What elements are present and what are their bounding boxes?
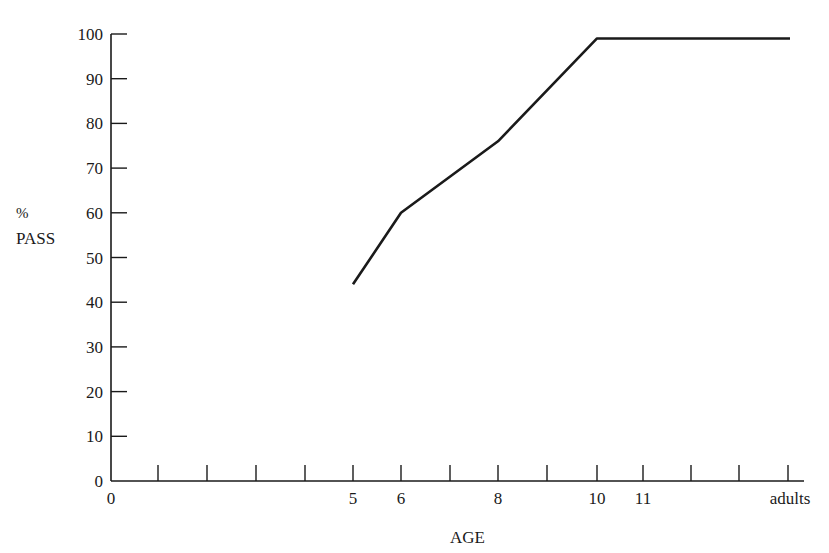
y-tick-label: 100 <box>78 25 104 44</box>
x-tick-label: 5 <box>349 489 358 508</box>
y-tick-label: 60 <box>86 204 103 223</box>
y-tick-label: 40 <box>86 293 103 312</box>
y-tick-label: 0 <box>95 472 104 491</box>
chart-canvas: 0102030405060708090100 05681011adults % … <box>0 0 829 553</box>
x-axis-ticks: 05681011adults <box>107 465 811 508</box>
y-tick-label: 70 <box>86 159 103 178</box>
y-axis-label-percent: % <box>16 205 29 221</box>
data-series <box>353 38 790 284</box>
y-tick-label: 20 <box>86 383 103 402</box>
x-tick-label: 8 <box>494 489 503 508</box>
axes <box>111 34 804 481</box>
y-tick-label: 90 <box>86 70 103 89</box>
x-axis-label: AGE <box>450 528 485 547</box>
y-tick-label: 80 <box>86 114 103 133</box>
x-tick-label: 6 <box>397 489 406 508</box>
pass-rate-line <box>353 38 790 284</box>
y-tick-label: 10 <box>86 427 103 446</box>
x-tick-label: 0 <box>107 489 116 508</box>
y-axis-label-pass: PASS <box>16 229 55 248</box>
x-tick-label: 11 <box>635 489 651 508</box>
x-tick-label: adults <box>770 489 811 508</box>
y-tick-label: 50 <box>86 249 103 268</box>
line-chart: 0102030405060708090100 05681011adults % … <box>0 0 829 553</box>
y-tick-label: 30 <box>86 338 103 357</box>
x-tick-label: 10 <box>589 489 606 508</box>
y-axis-ticks: 0102030405060708090100 <box>78 25 128 491</box>
